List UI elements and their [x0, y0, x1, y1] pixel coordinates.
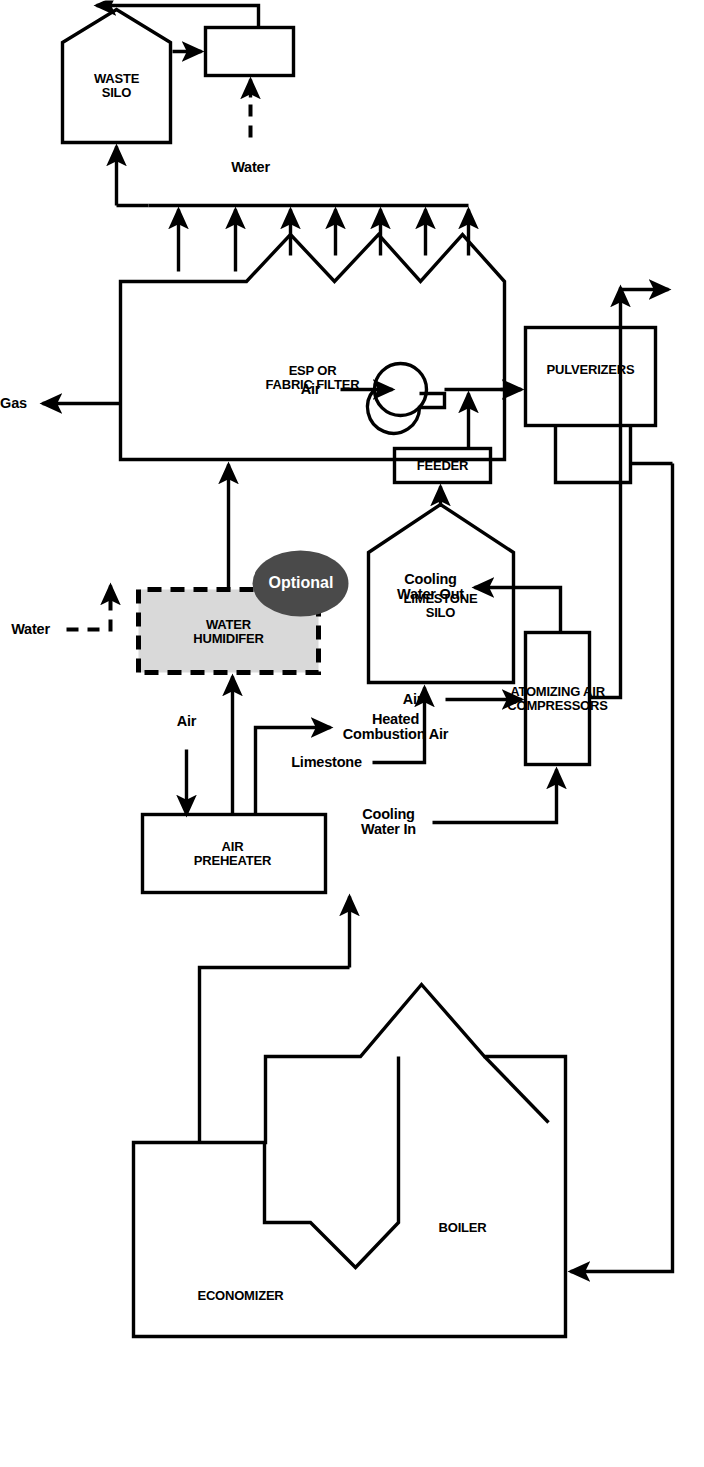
- boiler-label: BOILER: [402, 1220, 522, 1234]
- boiler-bottom-slope: [484, 1056, 548, 1122]
- optional-badge: Optional: [252, 550, 348, 616]
- waste-silo-label: WASTE SILO: [61, 71, 171, 99]
- pulverizers-label: PULVERIZERS: [515, 362, 665, 376]
- water-humidifier-label: WATER HUMIDIFER: [153, 617, 303, 645]
- economizer-label: ECONOMIZER: [170, 1288, 310, 1302]
- air-to-blower-label: Air: [275, 381, 345, 396]
- economizer-boiler-internal-wall: [264, 1056, 398, 1267]
- air-preheater-label: AIR PREHEATER: [157, 839, 307, 867]
- air-to-preheater-label: Air: [151, 713, 221, 728]
- pulverizers-side-compartment: [555, 425, 630, 482]
- water-to-humidifier-label: Water: [0, 621, 85, 636]
- feeder-label: FEEDER: [387, 458, 497, 472]
- cooling-water-out-label: Cooling Water Out: [355, 572, 505, 603]
- compressed-air-out: [589, 287, 620, 697]
- optional-label: Optional: [267, 575, 333, 592]
- cooling-water-in-label: Cooling Water In: [318, 807, 458, 838]
- air-to-compressors-label: Air: [377, 691, 447, 706]
- water-to-mixer-label: Water: [195, 159, 305, 174]
- heated-combustion-air-label: Heated Combustion Air: [305, 712, 485, 743]
- diagram-canvas: BOILER ECONOMIZER AIR PREHEATER WATER HU…: [0, 0, 704, 1467]
- treated-gas-label: Treated Gas: [0, 395, 61, 410]
- limestone-feed-label: Limestone: [256, 754, 396, 769]
- diagram-page: BOILER ECONOMIZER AIR PREHEATER WATER HU…: [0, 0, 704, 1467]
- waste-to-disposal-line: [96, 5, 258, 27]
- econ-to-aph: [199, 967, 349, 1141]
- atomizing-air-compressors-label: ATOMIZING AIR COMPRESSORS: [477, 684, 637, 712]
- waste-mixer-box: [205, 27, 293, 75]
